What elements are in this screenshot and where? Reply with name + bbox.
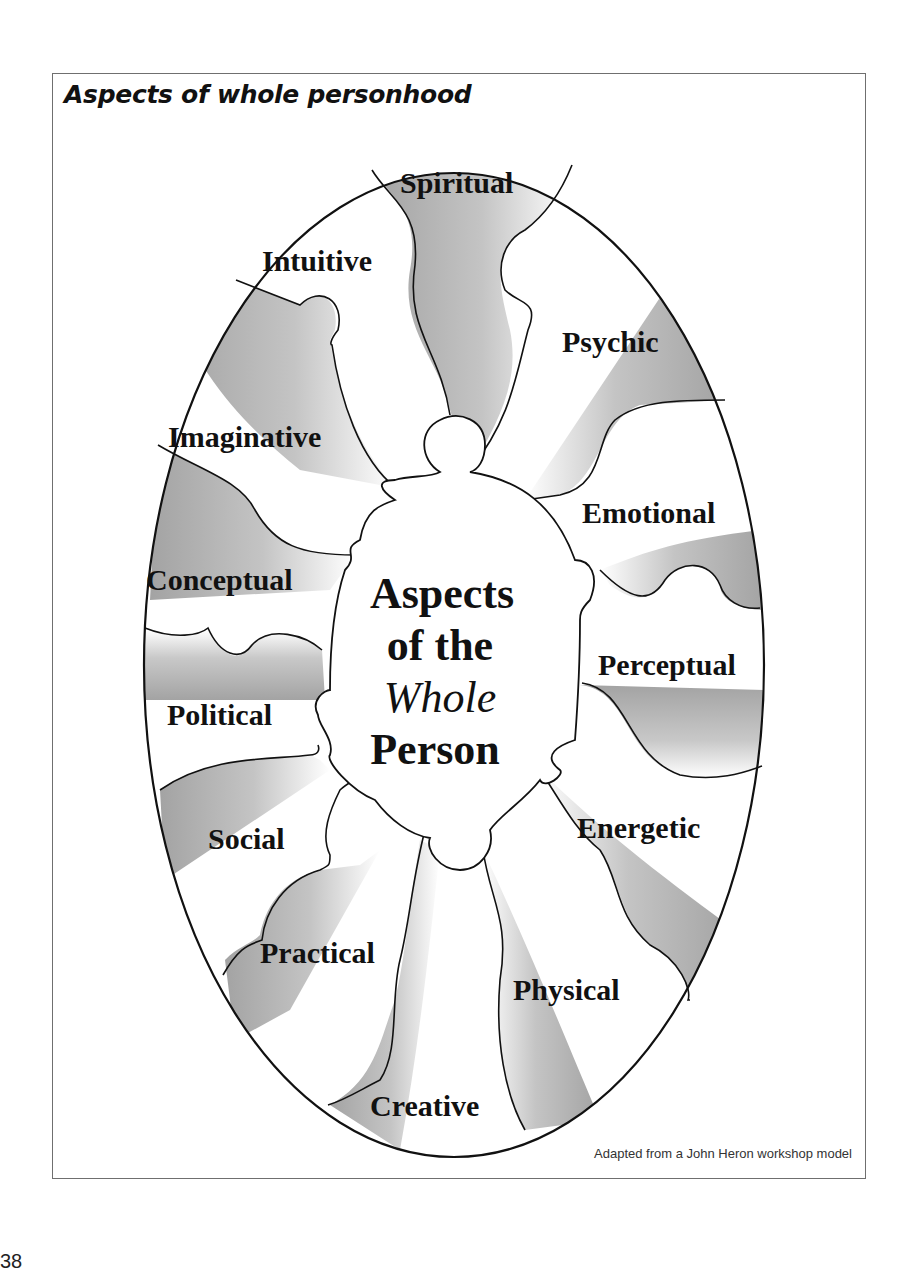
label-conceptual: Conceptual xyxy=(146,563,293,596)
label-social: Social xyxy=(208,822,285,855)
center-title-line3: Whole xyxy=(384,673,496,722)
center-title-line4: Person xyxy=(370,725,500,774)
label-physical: Physical xyxy=(513,973,620,1006)
label-political: Political xyxy=(167,698,272,731)
label-psychic: Psychic xyxy=(562,325,659,358)
label-practical: Practical xyxy=(260,936,375,969)
label-perceptual: Perceptual xyxy=(598,648,736,681)
label-intuitive: Intuitive xyxy=(262,244,372,277)
label-emotional: Emotional xyxy=(582,496,715,529)
figure-caption: Adapted from a John Heron workshop model xyxy=(594,1146,852,1161)
page-number: 38 xyxy=(0,1250,22,1272)
center-title-line2: of the xyxy=(387,621,493,670)
center-title-line1: Aspects xyxy=(370,569,514,618)
label-energetic: Energetic xyxy=(577,811,700,844)
label-creative: Creative xyxy=(370,1089,479,1122)
label-imaginative: Imaginative xyxy=(168,420,321,453)
label-spiritual: Spiritual xyxy=(400,166,513,199)
